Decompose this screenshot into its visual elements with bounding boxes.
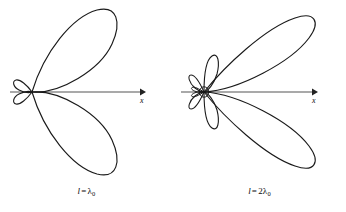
caption-right: l=2λ0 <box>173 186 346 197</box>
second-lower-lobe-right <box>204 92 218 129</box>
main-upper-lobe-right <box>204 16 315 92</box>
back-upper-lobe-left <box>14 80 32 93</box>
polar-plot-right: x <box>173 0 346 180</box>
caption-subscript-left: 0 <box>92 190 95 197</box>
caption-left: l=λ0 <box>0 186 173 197</box>
polar-plot-left: x <box>0 0 173 180</box>
x-axis-label-left: x <box>139 96 144 105</box>
x-axis-label-right: x <box>311 96 316 105</box>
back-lower-lobe-left <box>14 92 32 105</box>
caption-subscript-right: 0 <box>267 190 270 197</box>
main-upper-lobe-left <box>32 9 117 92</box>
panel-left: x l=λ0 <box>0 0 173 212</box>
main-lower-lobe-left <box>32 92 117 175</box>
second-upper-lobe-right <box>204 55 218 92</box>
main-lower-lobe-right <box>204 92 315 168</box>
panel-right: x l=2λ0 <box>173 0 346 212</box>
figure-root: x l=λ0 <box>0 0 346 212</box>
third-lower-lobe-right <box>189 92 204 109</box>
third-upper-lobe-right <box>189 75 204 92</box>
